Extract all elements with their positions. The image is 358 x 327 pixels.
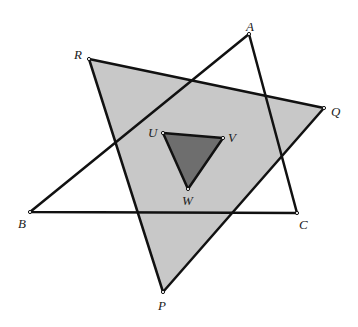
label-c: C <box>299 217 308 232</box>
label-u: U <box>148 125 159 140</box>
label-a: A <box>245 19 254 34</box>
geometry-diagram: A B C P Q R U V W <box>0 0 358 327</box>
label-p: P <box>157 298 166 313</box>
label-w: W <box>182 193 194 208</box>
label-q: Q <box>331 104 341 119</box>
label-r: R <box>73 47 82 62</box>
label-b: B <box>18 216 26 231</box>
triangle-pqr <box>89 59 324 292</box>
